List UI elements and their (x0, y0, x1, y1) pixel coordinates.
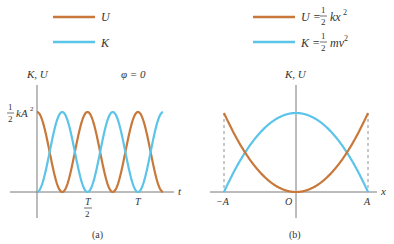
legend-b: U = 1 2 kx 2 K = 1 2 mv 2 (253, 5, 348, 53)
legend-b-k-lhs: K = (300, 36, 320, 50)
panel-a-phase-label: φ = 0 (121, 68, 146, 80)
panel-a-tick-half-T-den: 2 (85, 209, 90, 219)
panel-a-y-axis-label: K, U (26, 68, 49, 80)
legend-b-u-rhs: kx (330, 10, 341, 24)
legend-b-k-rhs: mv (330, 36, 345, 50)
panel-a-tick-half-T-num: T (85, 196, 92, 207)
legend-a: U K (53, 10, 111, 50)
legend-u-label: U (101, 10, 111, 24)
panel-a-max-num: 1 (8, 102, 13, 112)
panel-a-x-axis-label: t (178, 185, 182, 197)
panel-a-max-rhs: kA (16, 107, 28, 119)
legend-k-label: K (100, 36, 110, 50)
panel-b-tick-neg-A: −A (216, 196, 230, 207)
panel-b: K, U x −A O A (b) (210, 68, 386, 241)
legend-b-k-exp: 2 (344, 34, 348, 43)
legend-b-u-num: 1 (321, 5, 326, 15)
panel-a-max-den: 2 (8, 114, 13, 124)
panel-a-max-exp: 2 (30, 105, 34, 113)
panel-a-tick-T: T (135, 196, 142, 207)
energy-diagram: U K U = 1 2 kx 2 K = 1 2 mv 2 K, U φ = 0… (0, 0, 394, 244)
panel-b-tick-A: A (363, 196, 371, 207)
panel-b-caption: (b) (289, 229, 301, 241)
legend-b-k-num: 1 (321, 31, 326, 41)
legend-b-u-den: 2 (321, 17, 326, 27)
panel-a: K, U φ = 0 1 2 kA 2 t T 2 T (a) (7, 68, 182, 241)
panel-b-x-axis-label: x (380, 185, 386, 197)
legend-b-k-den: 2 (321, 43, 326, 53)
legend-b-u-lhs: U = (301, 10, 321, 24)
legend-b-u-exp: 2 (343, 8, 347, 17)
panel-b-tick-O: O (285, 196, 292, 207)
panel-a-caption: (a) (92, 229, 103, 241)
panel-b-y-axis-label: K, U (284, 68, 307, 80)
